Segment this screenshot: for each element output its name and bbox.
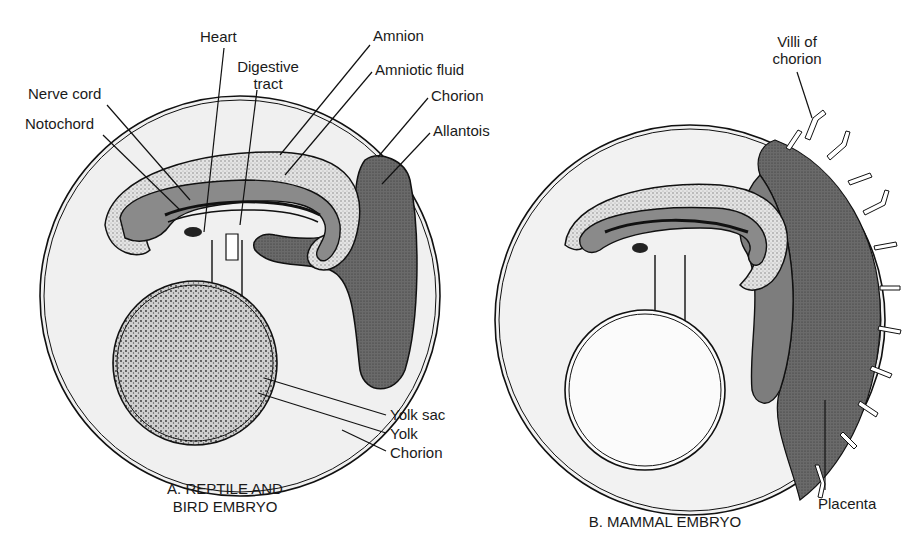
caption-panel-b: B. MAMMAL EMBRYO [580, 513, 750, 531]
caption-panel-a: A. REPTILE AND BIRD EMBRYO [150, 480, 300, 516]
embryo-diagram [0, 0, 916, 550]
yolk-sac-b [565, 310, 725, 470]
panel-b-mammal-embryo [495, 72, 901, 515]
label-amnion: Amnion [373, 27, 424, 44]
yolk-sac-a [113, 281, 277, 445]
label-allantois: Allantois [433, 122, 490, 139]
label-villi-of-chorion: Villi of chorion [762, 33, 832, 67]
label-amniotic-fluid: Amniotic fluid [375, 61, 464, 78]
heart-a [184, 227, 202, 237]
label-chorion-top: Chorion [431, 87, 484, 104]
label-yolk-sac: Yolk sac [390, 406, 445, 423]
panel-a-reptile-bird-embryo [40, 45, 440, 496]
label-nerve-cord: Nerve cord [28, 85, 101, 102]
label-placenta: Placenta [818, 495, 876, 512]
label-yolk: Yolk [390, 425, 418, 442]
label-chorion-bottom: Chorion [390, 444, 443, 461]
label-digestive-tract: Digestive tract [228, 58, 308, 92]
label-notochord: Notochord [25, 115, 94, 132]
label-heart: Heart [200, 28, 237, 45]
